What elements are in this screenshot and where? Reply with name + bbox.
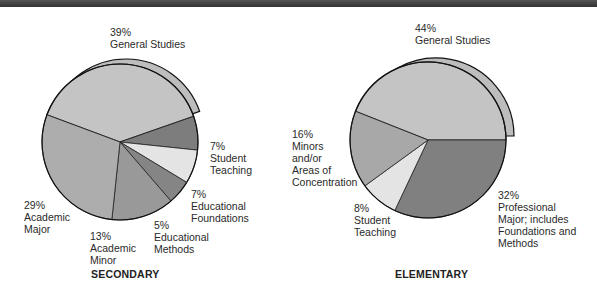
label-sec-general-studies: 39% General Studies xyxy=(110,26,185,50)
label-sec-student-teaching: 7% Student Teaching xyxy=(210,140,252,176)
label-ele-professional-major: 32% Professional Major; includes Foundat… xyxy=(498,189,576,249)
title-elementary: ELEMENTARY xyxy=(395,268,468,280)
label-sec-educational-methods: 5% Educational Methods xyxy=(154,219,209,255)
title-secondary: SECONDARY xyxy=(91,268,160,280)
label-ele-student-teaching: 8% Student Teaching xyxy=(354,202,396,238)
elementary-pie xyxy=(350,58,514,218)
secondary-pie xyxy=(42,59,200,220)
label-ele-minors: 16% Minors and/or Areas of Concentration xyxy=(292,128,357,188)
label-ele-general-studies: 44% General Studies xyxy=(415,22,490,46)
label-sec-academic-minor: 13% Academic Minor xyxy=(90,230,136,266)
label-sec-academic-major: 29% Academic Major xyxy=(24,199,70,235)
